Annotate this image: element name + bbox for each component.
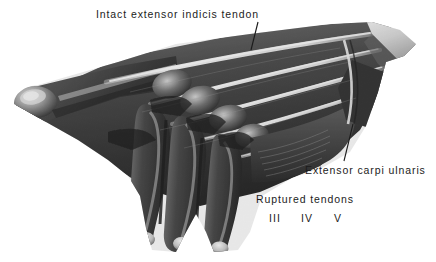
tendon-numeral-3: III	[269, 213, 281, 224]
specimen-body	[0, 0, 436, 262]
tendon-numeral-4: IV	[301, 213, 313, 224]
label-intact-extensor-indicis-tendon: Intact extensor indicis tendon	[96, 9, 259, 20]
halftone-grain	[0, 0, 436, 262]
hand-dissection-illustration	[0, 0, 436, 262]
label-ruptured-tendons: Ruptured tendons	[256, 194, 354, 205]
tendon-numeral-5: V	[334, 213, 342, 224]
anatomy-figure: Intact extensor indicis tendon Extensor …	[0, 0, 436, 262]
label-extensor-carpi-ulnaris: Extensor carpi ulnaris	[305, 165, 426, 176]
